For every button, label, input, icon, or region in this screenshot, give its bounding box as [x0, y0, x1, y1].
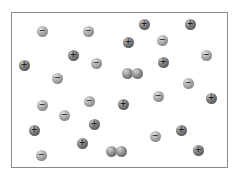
charge-symbol: +	[206, 93, 217, 104]
charge-symbol: +	[19, 60, 30, 71]
positive-ion-icon: +	[139, 19, 150, 30]
neutral-atom-icon	[132, 68, 143, 79]
neutral-atom-icon	[116, 146, 127, 157]
charge-symbol: −	[157, 35, 168, 46]
negative-ion-icon: −	[183, 78, 194, 89]
charge-symbol: −	[59, 110, 70, 121]
positive-ion-icon: +	[29, 125, 40, 136]
positive-ion-icon: +	[123, 37, 134, 48]
negative-ion-icon: −	[36, 150, 47, 161]
charge-symbol: +	[139, 19, 150, 30]
negative-ion-icon: −	[91, 58, 102, 69]
charge-symbol: +	[185, 19, 196, 30]
charge-symbol: +	[123, 37, 134, 48]
charge-symbol	[116, 146, 127, 157]
negative-ion-icon: −	[150, 131, 161, 142]
charge-symbol: +	[29, 125, 40, 136]
charge-symbol: −	[150, 131, 161, 142]
charge-symbol: −	[36, 150, 47, 161]
positive-ion-icon: +	[185, 19, 196, 30]
charge-symbol: −	[84, 96, 95, 107]
charge-symbol: −	[201, 50, 212, 61]
positive-ion-icon: +	[176, 125, 187, 136]
charge-symbol: +	[193, 145, 204, 156]
negative-ion-icon: −	[37, 100, 48, 111]
positive-ion-icon: +	[193, 145, 204, 156]
charge-symbol: +	[158, 57, 169, 68]
charge-symbol: +	[176, 125, 187, 136]
negative-ion-icon: −	[37, 26, 48, 37]
negative-ion-icon: −	[153, 91, 164, 102]
positive-ion-icon: +	[68, 50, 79, 61]
charge-symbol: +	[89, 119, 100, 130]
charge-symbol: +	[118, 99, 129, 110]
negative-ion-icon: −	[59, 110, 70, 121]
charge-symbol	[132, 68, 143, 79]
positive-ion-icon: +	[158, 57, 169, 68]
positive-ion-icon: +	[19, 60, 30, 71]
negative-ion-icon: −	[83, 26, 94, 37]
charge-symbol: +	[77, 138, 88, 149]
charge-symbol: −	[37, 26, 48, 37]
negative-ion-icon: −	[84, 96, 95, 107]
charge-symbol: −	[52, 73, 63, 84]
positive-ion-icon: +	[206, 93, 217, 104]
charge-symbol: −	[153, 91, 164, 102]
positive-ion-icon: +	[118, 99, 129, 110]
negative-ion-icon: −	[201, 50, 212, 61]
negative-ion-icon: −	[52, 73, 63, 84]
charge-symbol: −	[37, 100, 48, 111]
positive-ion-icon: +	[89, 119, 100, 130]
charge-symbol: −	[83, 26, 94, 37]
charge-symbol: −	[183, 78, 194, 89]
positive-ion-icon: +	[77, 138, 88, 149]
charge-symbol: +	[68, 50, 79, 61]
charge-symbol: −	[91, 58, 102, 69]
negative-ion-icon: −	[157, 35, 168, 46]
